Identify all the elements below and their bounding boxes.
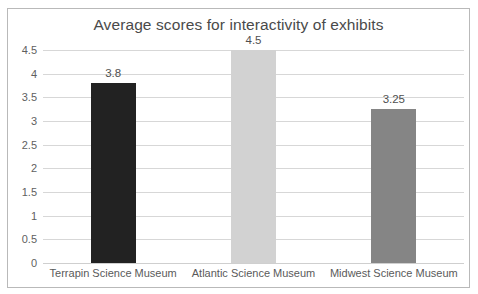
y-axis-tick-label: 4 — [31, 68, 37, 80]
bar[interactable]: 3.25 — [371, 109, 416, 263]
x-axis-category-label: Midwest Science Museum — [330, 267, 458, 279]
x-axis-category-label: Terrapin Science Museum — [50, 267, 177, 279]
y-axis-tick-label: 2 — [31, 162, 37, 174]
bar-value-label: 3.8 — [105, 67, 121, 79]
y-axis-tick-label: 0 — [31, 257, 37, 269]
chart-frame: Average scores for interactivity of exhi… — [7, 8, 470, 288]
y-axis-tick-label: 3.5 — [22, 91, 37, 103]
plot-area: 00.511.522.533.544.5 3.84.53.25 — [43, 50, 464, 263]
x-axis-category-labels: Terrapin Science MuseumAtlantic Science … — [43, 267, 464, 287]
chart-title: Average scores for interactivity of exhi… — [8, 16, 469, 34]
gridline — [43, 263, 464, 264]
y-axis-tick-label: 1.5 — [22, 186, 37, 198]
y-axis-tick-label: 1 — [31, 210, 37, 222]
bar-value-label: 4.5 — [246, 34, 262, 46]
x-axis-category-label: Atlantic Science Museum — [192, 267, 316, 279]
bar[interactable]: 3.8 — [91, 83, 136, 263]
y-axis-tick-label: 4.5 — [22, 44, 37, 56]
y-axis-tick-label: 0.5 — [22, 233, 37, 245]
bar-value-label: 3.25 — [383, 93, 405, 105]
y-axis-tick-label: 2.5 — [22, 139, 37, 151]
y-axis-tick-label: 3 — [31, 115, 37, 127]
bar[interactable]: 4.5 — [231, 50, 276, 263]
